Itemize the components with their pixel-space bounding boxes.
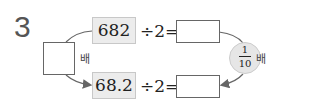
fraction-numerator: 1 — [231, 44, 259, 55]
ratio-fraction: 1 10 — [231, 44, 259, 69]
ratio-unit-label: 배 — [256, 50, 266, 66]
bottom-value-box: 68.2 — [92, 72, 136, 99]
left-unit-label: 배 — [80, 50, 90, 66]
left-answer-box[interactable] — [43, 42, 75, 75]
top-operation: ÷2= — [140, 21, 179, 41]
top-answer-box[interactable] — [176, 20, 220, 43]
fraction-bar — [239, 56, 251, 57]
top-value-box: 682 — [92, 17, 136, 44]
bottom-answer-box[interactable] — [176, 75, 220, 98]
bottom-operation: ÷2= — [140, 76, 179, 96]
fraction-denominator: 10 — [231, 58, 259, 69]
